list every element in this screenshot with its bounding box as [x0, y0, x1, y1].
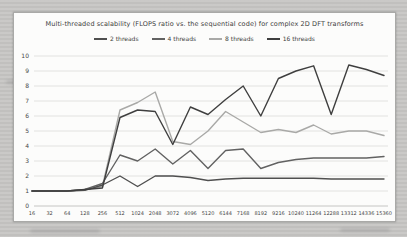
chart-title: Multi-threaded scalability (FLOPS ratio …	[14, 20, 395, 28]
y-axis-tick-label: 6	[25, 112, 29, 119]
chart-panel: Multi-threaded scalability (FLOPS ratio …	[13, 12, 396, 222]
x-axis-tick-label: 2048	[149, 210, 162, 216]
legend-line-swatch	[152, 38, 165, 40]
legend-item-8-threads: 8 threads	[209, 35, 254, 42]
x-axis-tick-label: 14336	[358, 210, 374, 216]
legend-line-swatch	[267, 38, 280, 40]
legend-item-2-threads: 2 threads	[94, 35, 139, 42]
y-axis-tick-label: 3	[25, 157, 29, 164]
x-axis-tick-label: 512	[115, 210, 125, 216]
series-line-4-threads	[32, 149, 384, 191]
x-axis-tick-label: 256	[98, 210, 108, 216]
y-axis-tick-label: 0	[25, 202, 29, 209]
y-axis-tick-label: 9	[25, 67, 29, 74]
x-axis-tick-label: 12288	[323, 210, 339, 216]
x-axis-tick-label: 7168	[237, 210, 250, 216]
legend-label: 2 threads	[110, 35, 139, 42]
series-line-16-threads	[32, 65, 384, 191]
x-axis-tick-label: 4096	[184, 210, 197, 216]
x-axis-tick-label: 10240	[288, 210, 304, 216]
legend-label: 4 threads	[168, 35, 197, 42]
x-axis-tick-label: 11264	[306, 210, 322, 216]
background-bleed-mark	[340, 228, 390, 232]
x-axis-tick-label: 5120	[202, 210, 215, 216]
legend-item-16-threads: 16 threads	[267, 35, 315, 42]
x-axis-tick-label: 64	[64, 210, 70, 216]
x-axis-tick-label: 128	[80, 210, 90, 216]
y-axis-tick-label: 8	[25, 82, 29, 89]
x-axis-tick-label: 13312	[341, 210, 357, 216]
legend-line-swatch	[94, 38, 107, 40]
legend-line-swatch	[209, 38, 222, 40]
x-axis-tick-label: 1024	[131, 210, 144, 216]
x-axis-tick-label: 15360	[376, 210, 392, 216]
y-axis-tick-label: 7	[25, 97, 29, 104]
x-axis-tick-label: 6144	[219, 210, 232, 216]
y-axis-tick-label: 4	[25, 142, 29, 149]
y-axis-tick-label: 5	[25, 127, 29, 134]
chart-legend: 2 threads4 threads8 threads16 threads	[14, 35, 395, 42]
x-axis-tick-label: 3072	[166, 210, 179, 216]
x-axis-tick-label: 16	[29, 210, 35, 216]
page-background: Multi-threaded scalability (FLOPS ratio …	[0, 0, 407, 237]
y-axis-tick-label: 2	[25, 172, 29, 179]
background-bleed-mark	[30, 229, 100, 233]
x-axis-tick-label: 9216	[272, 210, 285, 216]
legend-label: 8 threads	[225, 35, 254, 42]
line-chart-plot: 0123456789101632641282565121024204830724…	[14, 51, 395, 219]
series-line-2-threads	[32, 176, 384, 191]
x-axis-tick-label: 8192	[254, 210, 267, 216]
x-axis-tick-label: 32	[46, 210, 52, 216]
legend-item-4-threads: 4 threads	[152, 35, 197, 42]
legend-label: 16 threads	[283, 35, 315, 42]
y-axis-tick-label: 1	[25, 187, 29, 194]
y-axis-tick-label: 10	[21, 52, 29, 59]
